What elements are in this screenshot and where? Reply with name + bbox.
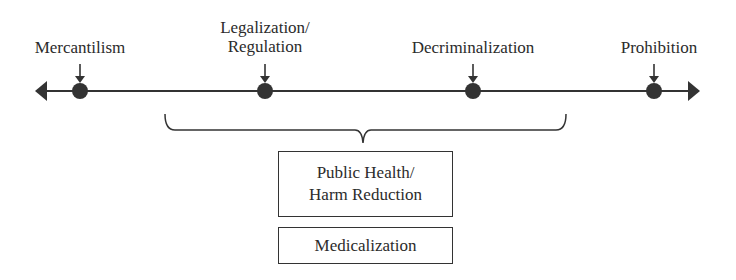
public-health-box: Public Health/ Harm Reduction [278,151,453,217]
decriminalization-label: Decriminalization [383,38,563,57]
left-arrowhead-icon [35,81,47,101]
mercantilism-dot [72,83,88,99]
public-health-box-line1: Public Health/ [317,162,415,184]
medicalization-box: Medicalization [278,227,453,264]
legalization-label-line1: Legalization/ [195,18,335,37]
public-health-box-line2: Harm Reduction [309,184,422,206]
legalization-label: Legalization/ Regulation [195,18,335,56]
medicalization-box-text: Medicalization [315,235,417,257]
prohibition-label-text: Prohibition [621,38,698,57]
brace-icon [165,114,566,143]
decriminalization-dot [465,83,481,99]
decriminalization-label-text: Decriminalization [412,38,535,57]
prohibition-dot [646,83,662,99]
legalization-dot [257,83,273,99]
mercantilism-label: Mercantilism [20,38,140,57]
mercantilism-label-text: Mercantilism [35,38,126,57]
right-arrowhead-icon [688,81,700,101]
legalization-label-line2: Regulation [195,37,335,56]
prohibition-label: Prohibition [604,38,714,57]
